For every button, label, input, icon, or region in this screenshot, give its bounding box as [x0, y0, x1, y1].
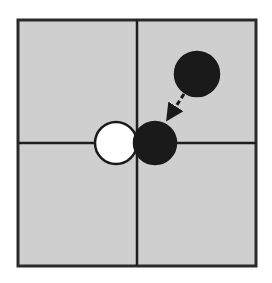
- move-diagram: [0, 0, 272, 283]
- black-stone-target: [134, 122, 176, 164]
- black-stone-source: [175, 52, 219, 96]
- white-stone: [95, 122, 137, 164]
